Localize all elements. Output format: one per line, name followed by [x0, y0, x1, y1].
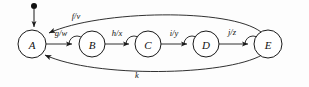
edge-label-fv: f/v	[72, 11, 81, 21]
node-B[interactable]: B	[79, 31, 105, 57]
node-C[interactable]: C	[135, 31, 161, 57]
node-E[interactable]: E	[254, 30, 282, 58]
start-dot-icon	[31, 3, 37, 9]
edge-label-iy: i/y	[170, 28, 179, 38]
node-D-label: D	[201, 39, 210, 51]
start-marker	[31, 3, 37, 27]
diagram-svg: f/v k g/w h/x i/y j/z	[0, 0, 309, 87]
node-B-label: B	[89, 39, 96, 51]
node-A[interactable]: A	[18, 30, 46, 58]
node-C-label: C	[144, 39, 152, 51]
edge-ea-bottom: k	[45, 55, 262, 80]
edge-label-jz: j/z	[227, 27, 237, 37]
edge-ea-bottom-path	[45, 55, 262, 72]
edge-label-k: k	[135, 70, 139, 80]
node-D[interactable]: D	[193, 31, 219, 57]
edge-label-gw: g/w	[55, 28, 68, 38]
node-A-label: A	[28, 39, 36, 51]
state-diagram-canvas: f/v k g/w h/x i/y j/z	[0, 0, 309, 87]
node-E-label: E	[264, 39, 272, 51]
edge-label-hx: h/x	[112, 28, 123, 38]
